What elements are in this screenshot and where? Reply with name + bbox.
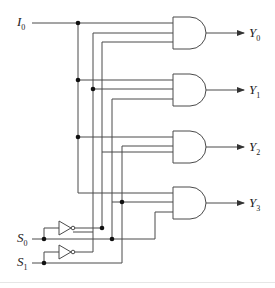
output-label-y2: Y2 (249, 140, 260, 157)
and-gate-y2 (173, 131, 206, 163)
inverter-s0 (59, 221, 75, 235)
s1-to-y3-wire (155, 212, 173, 239)
input-label-i0: I0 (17, 15, 25, 32)
select-label-s0: S0 (17, 231, 28, 248)
output-label-y0: Y0 (249, 26, 260, 43)
and-gate-y0 (173, 17, 206, 49)
select-label-s1: S1 (17, 255, 28, 272)
circuit-diagram (0, 0, 275, 288)
and-gate-y1 (173, 74, 206, 106)
inverter-s1 (59, 245, 75, 259)
inverter-outputs (75, 232, 93, 252)
output-label-y1: Y1 (249, 83, 260, 100)
inverter-input-taps (44, 228, 59, 263)
and-gate-y3 (173, 187, 206, 219)
output-label-y3: Y3 (249, 196, 260, 213)
divider (0, 282, 275, 283)
